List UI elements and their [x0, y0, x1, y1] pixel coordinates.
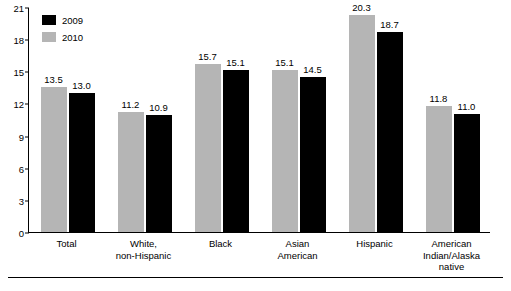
bar-value-label: 13.5	[44, 74, 63, 85]
bar-value-label: 20.3	[352, 2, 371, 13]
bar-value-label: 13.0	[72, 80, 91, 91]
y-axis-tick-label: 15	[13, 67, 24, 78]
x-axis-category-line: native	[413, 261, 490, 273]
bar-group: 15.114.5	[260, 8, 337, 232]
bar-value-label: 15.1	[275, 57, 294, 68]
x-axis-category-label: Black	[182, 238, 259, 250]
bar-group: 20.318.7	[337, 8, 414, 232]
x-axis-category-label: Total	[28, 238, 105, 250]
y-axis-tick-label: 9	[19, 131, 24, 142]
bar-value-label: 10.9	[149, 102, 168, 113]
bar-2009: 15.1	[223, 70, 249, 232]
x-axis-category-line: Asian	[259, 238, 336, 250]
bar-2010: 20.3	[349, 15, 375, 233]
bar-2010: 11.2	[118, 112, 144, 232]
x-axis-category-label: White,non-Hispanic	[105, 238, 182, 261]
bar-2009: 10.9	[146, 115, 172, 232]
plot-area: 036912151821 13.513.011.210.915.715.115.…	[28, 8, 490, 233]
bar-value-label: 14.5	[303, 64, 322, 75]
x-axis-category-line: non-Hispanic	[105, 250, 182, 262]
bar-value-label: 11.0	[458, 101, 476, 112]
x-axis-category-line: American	[413, 238, 490, 250]
chart-figure: 036912151821 13.513.011.210.915.715.115.…	[0, 0, 511, 291]
bottom-divider	[8, 277, 503, 278]
y-axis-tick-label: 3	[19, 195, 24, 206]
bar-value-label: 11.2	[122, 99, 140, 110]
bar-2009: 11.0	[454, 114, 480, 232]
bar-value-label: 15.7	[198, 51, 217, 62]
bar-2009: 13.0	[69, 93, 95, 232]
bar-2010: 15.7	[195, 64, 221, 232]
bar-2009: 18.7	[377, 32, 403, 232]
legend-swatch	[42, 15, 56, 25]
bar-series-container: 13.513.011.210.915.715.115.114.520.318.7…	[29, 8, 490, 232]
bar-group: 11.210.9	[106, 8, 183, 232]
x-axis-category-line: Indian/Alaska	[413, 250, 490, 262]
legend: 20092010	[42, 13, 83, 47]
bar-group: 11.811.0	[414, 8, 491, 232]
bar-group: 15.715.1	[183, 8, 260, 232]
bar-value-label: 18.7	[380, 19, 399, 30]
legend-item: 2009	[42, 13, 83, 27]
y-axis-tick-mark	[25, 233, 29, 234]
y-axis-tick-label: 12	[13, 99, 24, 110]
y-axis-tick-label: 21	[13, 3, 24, 14]
legend-swatch	[42, 32, 56, 42]
bar-2010: 13.5	[41, 87, 67, 232]
y-axis-tick-label: 18	[13, 35, 24, 46]
x-axis-category-line: White,	[105, 238, 182, 250]
bar-value-label: 11.8	[430, 93, 448, 104]
x-axis-category-label: Hispanic	[336, 238, 413, 250]
x-axis-category-line: Hispanic	[336, 238, 413, 250]
x-axis-category-line: Black	[182, 238, 259, 250]
x-axis-category-label: AsianAmerican	[259, 238, 336, 261]
bar-value-label: 15.1	[226, 57, 245, 68]
legend-label: 2009	[62, 15, 83, 26]
bar-2009: 14.5	[300, 77, 326, 232]
x-axis-category-line: Total	[28, 238, 105, 250]
y-axis-tick-label: 6	[19, 163, 24, 174]
bar-2010: 11.8	[426, 106, 452, 232]
x-axis-category-label: AmericanIndian/Alaskanative	[413, 238, 490, 273]
bar-2010: 15.1	[272, 70, 298, 232]
legend-label: 2010	[62, 32, 83, 43]
y-axis-tick-label: 0	[19, 228, 24, 239]
x-axis-category-line: American	[259, 250, 336, 262]
legend-item: 2010	[42, 30, 83, 44]
